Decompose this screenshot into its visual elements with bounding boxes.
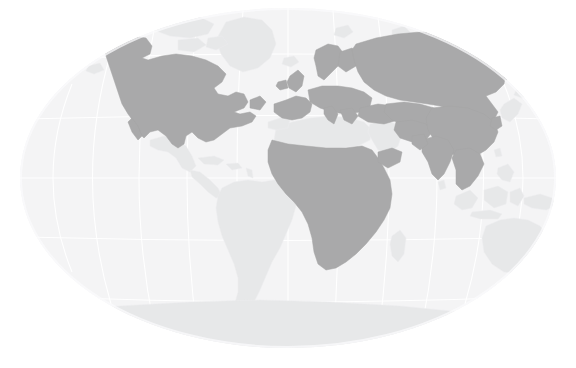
world-map-svg: Highlighted Not highlighted bbox=[0, 0, 576, 368]
world-map-figure: Highlighted Not highlighted Winkel Tripe… bbox=[0, 0, 576, 368]
